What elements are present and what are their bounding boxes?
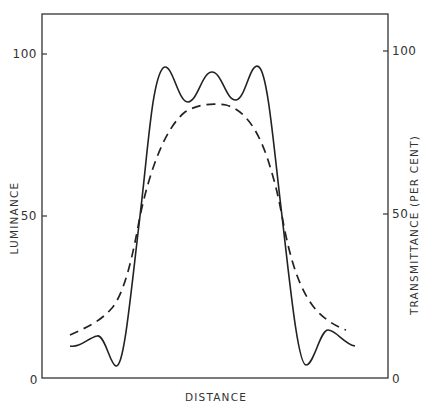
luminance-curve (70, 66, 355, 366)
left-tick-label-100: 100 (13, 47, 37, 61)
transmittance-curve (70, 104, 346, 335)
right-tick-label-50: 50 (392, 207, 408, 221)
left-tick-label-50: 50 (21, 209, 37, 223)
luminance-transmittance-chart: 100 50 0 100 50 0 DISTANCE LUMINANCE TRA… (0, 0, 424, 407)
x-axis-title: DISTANCE (185, 391, 247, 403)
left-tick-label-0: 0 (30, 373, 38, 387)
right-tick-label-0: 0 (392, 372, 400, 386)
y-right-axis-title: TRANSMITTANCE (PER CENT) (408, 135, 420, 316)
y-left-axis-title: LUMINANCE (8, 182, 20, 255)
plot-frame (42, 14, 388, 378)
right-tick-label-100: 100 (392, 44, 416, 58)
